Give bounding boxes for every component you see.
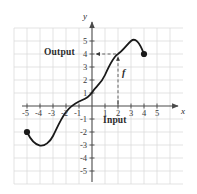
endpoint-dot-right [141, 51, 147, 57]
y-tick--1: -1 [80, 115, 87, 124]
x-tick-4: 4 [142, 109, 146, 118]
x-tick--3: -3 [48, 109, 55, 118]
y-tick-2: 2 [83, 76, 87, 85]
function-graph [0, 0, 197, 194]
y-tick--5: -5 [80, 167, 87, 176]
x-tick-3: 3 [129, 109, 133, 118]
x-tick-2: 2 [116, 109, 120, 118]
x-tick--5: -5 [22, 109, 29, 118]
y-axis-label: y [83, 12, 87, 21]
x-tick--4: -4 [35, 109, 42, 118]
x-tick-5: 5 [155, 109, 159, 118]
y-tick--4: -4 [80, 154, 87, 163]
y-tick-5: 5 [83, 37, 87, 46]
endpoint-dot-left [24, 129, 30, 135]
y-tick-1: 1 [83, 89, 87, 98]
y-tick-3: 3 [83, 63, 87, 72]
function-label: f [122, 68, 125, 78]
x-tick-1: 1 [103, 109, 107, 118]
annotation-lines [96, 54, 118, 104]
output-label: Output [44, 48, 75, 58]
y-tick-4: 4 [83, 50, 87, 59]
y-tick--3: -3 [80, 141, 87, 150]
x-tick--2: -2 [61, 109, 68, 118]
y-tick--2: -2 [80, 128, 87, 137]
x-axis-label: x [181, 107, 185, 116]
figure-container: y x f Output Input -5 -4 -3 -2 -1 1 2 3 … [0, 0, 197, 194]
